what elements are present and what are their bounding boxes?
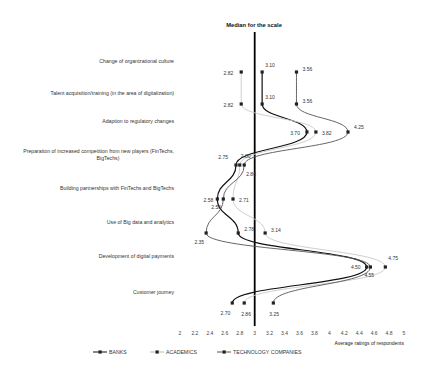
value-label: 2.86 xyxy=(246,171,256,177)
category-label: Development of digital payments xyxy=(99,253,175,259)
data-point-marker xyxy=(234,163,237,166)
category-label: Use of Big data and analytics xyxy=(107,219,175,225)
x-tick-label: 2.2 xyxy=(191,330,198,336)
value-label: 4.75 xyxy=(388,255,398,261)
value-label: 2.71 xyxy=(239,197,249,203)
x-tick-label: 4.8 xyxy=(386,330,393,336)
value-label: 2.35 xyxy=(194,239,204,245)
x-tick-label: 4.2 xyxy=(341,330,348,336)
x-tick-label: 3.6 xyxy=(296,330,303,336)
x-tick-label: 3.8 xyxy=(311,330,318,336)
value-label: 2.80 xyxy=(241,153,251,159)
data-point-marker xyxy=(243,163,246,166)
x-tick-label: 2.4 xyxy=(206,330,213,336)
category-label: BigTechs) xyxy=(97,155,120,161)
value-label: 3.82 xyxy=(322,130,332,136)
x-tick-label: 4.4 xyxy=(356,330,363,336)
data-point-marker xyxy=(295,70,298,73)
value-label: 3.25 xyxy=(269,311,279,317)
data-point-marker xyxy=(205,231,208,234)
data-point-marker xyxy=(238,163,241,166)
data-point-marker xyxy=(369,265,372,268)
value-label: 2.58 xyxy=(204,197,214,203)
value-label: 2.70 xyxy=(221,310,231,316)
category-label: Talent acquisition/training (in the area… xyxy=(51,90,175,96)
value-label: 4.55 xyxy=(364,272,374,278)
legend-swatch-marker xyxy=(223,350,226,353)
value-label: 2.82 xyxy=(223,70,233,76)
category-labels: Change of organizational cultureTalent a… xyxy=(23,58,174,295)
data-point-marker xyxy=(216,197,219,200)
value-label: 3.56 xyxy=(302,98,312,104)
category-label: Preparation of increased competition fro… xyxy=(23,148,174,154)
category-label: Change of organizational culture xyxy=(99,58,174,64)
legend-label: ACADEMICS xyxy=(166,349,197,355)
data-point-marker xyxy=(261,70,264,73)
data-point-marker xyxy=(295,102,298,105)
data-point-marker xyxy=(231,301,234,304)
x-axis-ticks: 22.22.42.62.833.23.43.63.844.24.44.64.85 xyxy=(179,330,406,336)
x-tick-label: 2 xyxy=(179,330,182,336)
x-tick-label: 2.6 xyxy=(221,330,228,336)
data-point-marker xyxy=(314,130,317,133)
x-tick-label: 5 xyxy=(403,330,406,336)
series-line-academics xyxy=(233,72,385,303)
value-label: 4.25 xyxy=(354,124,364,130)
x-tick-label: 4 xyxy=(328,330,331,336)
data-point-marker xyxy=(240,102,243,105)
category-label: Customer journey xyxy=(133,289,174,295)
value-label: 2.86 xyxy=(241,311,251,317)
data-point-marker xyxy=(305,130,308,133)
value-label: 4.50 xyxy=(351,264,361,270)
data-point-marker xyxy=(237,231,240,234)
value-label: 3.10 xyxy=(265,62,275,68)
data-point-marker xyxy=(261,102,264,105)
x-tick-label: 2.8 xyxy=(236,330,243,336)
data-point-marker xyxy=(272,301,275,304)
data-point-marker xyxy=(264,231,267,234)
x-tick-label: 4.6 xyxy=(371,330,378,336)
category-label: Building partnerships with FinTechs and … xyxy=(60,185,174,191)
series-line-banks xyxy=(217,72,366,303)
value-label: 3.10 xyxy=(265,94,275,100)
value-label: 3.56 xyxy=(302,66,312,72)
x-tick-label: 3 xyxy=(253,330,256,336)
legend-swatch-marker xyxy=(156,350,159,353)
value-label: 3.14 xyxy=(271,227,281,233)
value-label: 2.82 xyxy=(223,102,233,108)
x-tick-label: 3.4 xyxy=(281,330,288,336)
category-label: Adaption to regulatory changes xyxy=(102,118,174,124)
value-label: 2.75 xyxy=(218,154,228,160)
legend-swatch-marker xyxy=(99,350,102,353)
value-label: 2.50 xyxy=(211,204,221,210)
data-point-marker xyxy=(231,197,234,200)
x-tick-label: 3.2 xyxy=(266,330,273,336)
profile-chart: Median for the scale Change of organizat… xyxy=(0,0,421,370)
value-label: 2.78 xyxy=(244,226,254,232)
data-point-marker xyxy=(243,301,246,304)
legend-label: BANKS xyxy=(109,349,127,355)
data-point-marker xyxy=(384,265,387,268)
x-axis-title: Average ratings of respondents xyxy=(335,340,405,346)
legend-label: TECHNOLOGY COMPANIES xyxy=(233,349,302,355)
median-title: Median for the scale xyxy=(226,22,283,28)
data-point-marker xyxy=(346,130,349,133)
data-point-marker xyxy=(240,70,243,73)
data-point-marker xyxy=(222,197,225,200)
value-label: 3.70 xyxy=(290,130,300,136)
data-point-marker xyxy=(365,265,368,268)
legend: BANKSACADEMICSTECHNOLOGY COMPANIES xyxy=(93,349,302,355)
